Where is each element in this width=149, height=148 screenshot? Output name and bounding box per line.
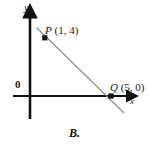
figure-caption: B. xyxy=(0,126,149,141)
origin-label: 0 xyxy=(15,79,21,90)
point-marker-q xyxy=(108,93,113,98)
y-axis-label: y xyxy=(24,3,28,13)
point-coords-p: (1, 4) xyxy=(54,24,78,36)
line-through-points xyxy=(37,28,125,114)
x-axis-label: x xyxy=(130,97,134,106)
point-label-q: Q (5, 0) xyxy=(110,82,145,93)
point-name-p: P xyxy=(45,24,52,36)
point-name-q: Q xyxy=(110,81,118,93)
coordinate-plane-figure: y x 0 P (1, 4) Q (5, 0) B. xyxy=(0,0,149,148)
point-label-p: P (1, 4) xyxy=(45,25,78,36)
point-coords-q: (5, 0) xyxy=(121,81,145,93)
